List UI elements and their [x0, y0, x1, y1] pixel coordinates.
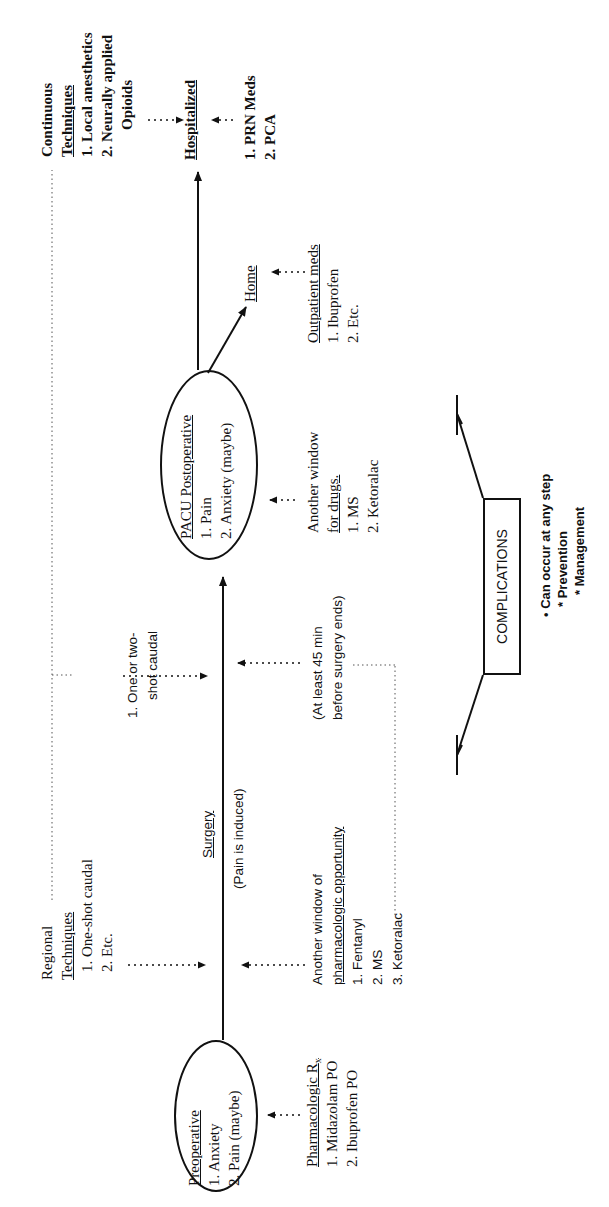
complications-left-wing [457, 675, 483, 755]
continuous-techniques-title: Continuous [37, 32, 57, 157]
surgery-title: Surgery [198, 811, 218, 858]
complications-sub-item: * Management [571, 474, 588, 617]
hospital-meds-block: 1. PRN Meds 2. PCA [240, 75, 280, 160]
pacu-drug-item: 1. MS [343, 432, 363, 533]
preoperative-item: 2. Pain (maybe) [224, 1091, 244, 1186]
timing-note-block: (At least 45 min before surgery ends) [308, 595, 348, 720]
outpatient-meds-title: Outpatient meds [303, 244, 323, 343]
pacu-item: 1. Pain [196, 415, 216, 539]
pacu-item: 2. Anxiety (maybe) [216, 415, 236, 539]
pacu-window-title: for drugs. [323, 432, 343, 533]
pharmacologic-rx-block: Pharmacologic Rx 1. Midazolam PO 2. Ibup… [302, 1058, 362, 1167]
pacu-title: PACU Postoperative [176, 415, 196, 539]
intraop-window-block: Another window of pharmacologic opportun… [308, 827, 408, 985]
continuous-technique-item: Opioids [117, 32, 137, 157]
preoperative-item: 1. Anxiety [204, 1091, 224, 1186]
regional-techniques-block: Regional Techniques 1. One-shot caudal 2… [37, 859, 117, 980]
continuous-technique-item: 1. Local anesthetics [77, 32, 97, 157]
intraop-window-title: pharmacologic opportunity [328, 827, 348, 985]
outpatient-meds-block: Outpatient meds 1. Ibuprofen 2. Etc. [303, 244, 363, 343]
complications-notes: • Can occur at any step * Prevention * M… [537, 474, 588, 617]
complications-right-wing [457, 414, 483, 498]
intraop-drug-item: 2. MS [368, 827, 388, 985]
preoperative-text: Preoperative 1. Anxiety 2. Pain (maybe) [184, 1091, 244, 1186]
regional-technique-item: 2. Etc. [97, 859, 117, 980]
regional-techniques-title: Regional [37, 859, 57, 980]
pain-management-flow-diagram: Preoperative 1. Anxiety 2. Pain (maybe) … [0, 0, 609, 1207]
pacu-window-block: Another window for drugs. 1. MS 2. Ketor… [303, 432, 383, 533]
complications-box: COMPLICATIONS [483, 498, 521, 675]
complications-sub-item: * Prevention [554, 474, 571, 617]
hospital-med-item: 1. PRN Meds [240, 75, 260, 160]
hospital-med-item: 2. PCA [260, 75, 280, 160]
outpatient-med-item: 1. Ibuprofen [323, 244, 343, 343]
pacu-to-home-arrow [208, 307, 246, 373]
pharmacologic-rx-item: 1. Midazolam PO [322, 1058, 342, 1167]
regional-technique-item: 1. One-shot caudal [77, 859, 97, 980]
intraop-drug-item: 1. Fentanyl [348, 827, 368, 985]
pacu-drug-item: 2. Ketoralac [363, 432, 383, 533]
pharmacologic-rx-title: Pharmacologic R [304, 1063, 320, 1167]
home-node: Home [240, 265, 260, 302]
complications-title: COMPLICATIONS [494, 529, 510, 644]
pharmacologic-rx-item: 2. Ibuprofen PO [342, 1058, 362, 1167]
caudal-option-block: 1. One or two- shot caudal [123, 631, 163, 718]
surgery-subtitle: (Pain is induced) [229, 788, 249, 889]
continuous-technique-item: 2. Neurally applied [97, 32, 117, 157]
complications-note: • Can occur at any step [537, 474, 554, 617]
intraop-drug-item: 3. Ketoralac [388, 827, 408, 985]
hospitalized-node: Hospitalized [180, 80, 200, 160]
outpatient-med-item: 2. Etc. [343, 244, 363, 343]
pacu-text: PACU Postoperative 1. Pain 2. Anxiety (m… [176, 415, 236, 539]
continuous-techniques-block: Continuous Techniques 1. Local anestheti… [37, 32, 137, 157]
preoperative-title: Preoperative [184, 1091, 204, 1186]
